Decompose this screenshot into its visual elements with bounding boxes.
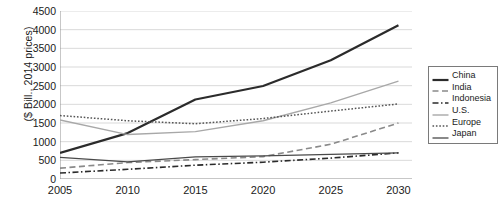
series-line-india bbox=[60, 123, 398, 168]
x-tick-label: 2015 bbox=[183, 184, 207, 196]
legend-label: China bbox=[452, 71, 476, 80]
legend-swatch-icon bbox=[432, 106, 449, 116]
legend-item-us[interactable]: U.S. bbox=[432, 105, 495, 117]
series-line-us bbox=[60, 81, 398, 134]
legend-label: Europe bbox=[452, 118, 481, 127]
legend-item-china[interactable]: China bbox=[432, 70, 495, 82]
legend-swatch-icon bbox=[432, 129, 449, 139]
x-tick-label: 2005 bbox=[48, 184, 72, 196]
x-tick-label: 2025 bbox=[319, 184, 343, 196]
x-tick-label: 2030 bbox=[386, 184, 410, 196]
x-tick-label: 2010 bbox=[115, 184, 139, 196]
legend-swatch-icon bbox=[432, 82, 449, 92]
legend-swatch-icon bbox=[432, 71, 449, 81]
legend-swatch-icon bbox=[432, 117, 449, 127]
legend-item-india[interactable]: India bbox=[432, 82, 495, 94]
x-tick-label: 2020 bbox=[251, 184, 275, 196]
legend-label: U.S. bbox=[452, 106, 470, 115]
legend-label: Indonesia bbox=[452, 94, 491, 103]
legend-label: India bbox=[452, 83, 472, 92]
legend-item-europe[interactable]: Europe bbox=[432, 116, 495, 128]
series-line-europe bbox=[60, 104, 398, 124]
legend-swatch-icon bbox=[432, 94, 449, 104]
legend-label: Japan bbox=[452, 129, 477, 138]
line-chart: ($ Bill., 2014 prices) 05001000150020002… bbox=[0, 0, 502, 214]
legend-item-japan[interactable]: Japan bbox=[432, 128, 495, 140]
legend-item-indonesia[interactable]: Indonesia bbox=[432, 93, 495, 105]
chart-legend: ChinaIndiaIndonesiaU.S.EuropeJapan bbox=[428, 66, 498, 144]
series-line-china bbox=[60, 25, 398, 153]
plot-area bbox=[60, 11, 412, 179]
plot-svg bbox=[60, 11, 412, 179]
